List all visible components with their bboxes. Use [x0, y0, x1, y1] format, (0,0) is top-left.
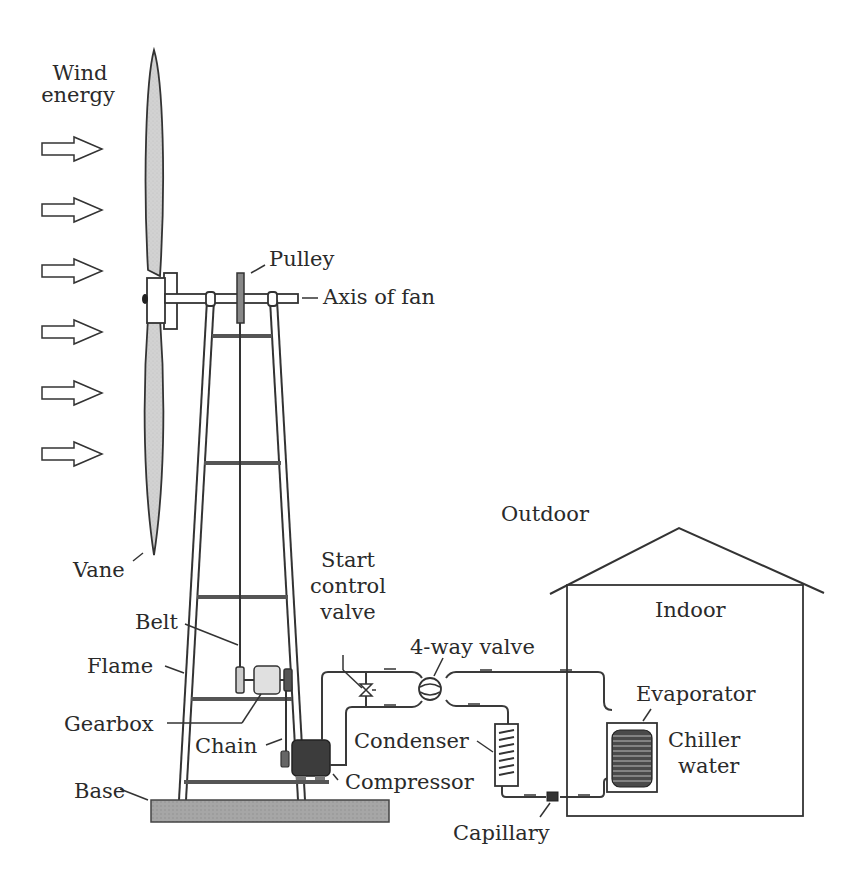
wind-arrow-icon [42, 137, 102, 161]
start-control-valve [360, 684, 376, 696]
start-control-valve-label-line2: control [310, 574, 386, 598]
tower-crossbars [184, 334, 329, 784]
wind-arrow-icon [42, 198, 102, 222]
four-way-valve [419, 678, 441, 700]
base [151, 800, 389, 822]
gearbox [236, 666, 292, 694]
wind-arrow-icon [42, 442, 102, 466]
base-label: Base [74, 779, 125, 803]
flame-label: Flame [87, 654, 153, 678]
evaporator [607, 723, 657, 792]
wind-energy-label-line2: energy [41, 83, 115, 107]
compressor [292, 740, 330, 780]
pulley [237, 273, 244, 323]
wind-energy-label: Wind [53, 61, 108, 85]
lower-blade [145, 318, 164, 555]
wind-arrows [42, 137, 102, 466]
start-control-valve-label-line3: valve [319, 600, 375, 624]
capillary-label: Capillary [453, 821, 550, 845]
wind-arrow-icon [42, 381, 102, 405]
indoor-label: Indoor [655, 598, 727, 622]
bearing [206, 292, 215, 306]
belt-label: Belt [135, 610, 179, 634]
pulley-label: Pulley [269, 247, 335, 271]
condenser-label: Condenser [354, 729, 470, 753]
start-control-valve-label: Start [321, 548, 375, 572]
chain-sprocket [281, 751, 289, 767]
wind-arrow-icon [42, 320, 102, 344]
upper-blade [146, 50, 164, 276]
condenser [495, 724, 518, 786]
compressor-label: Compressor [345, 770, 475, 794]
chain-label: Chain [195, 734, 257, 758]
outdoor-label: Outdoor [501, 502, 590, 526]
chiller-water-label-line2: water [678, 754, 740, 778]
vane-label: Vane [72, 558, 125, 582]
axis-of-fan-label: Axis of fan [322, 285, 435, 309]
gearbox-label: Gearbox [64, 712, 154, 736]
evaporator-label: Evaporator [636, 682, 756, 706]
capillary [547, 792, 558, 801]
bearing [268, 292, 277, 306]
four-way-valve-label: 4-way valve [410, 635, 535, 659]
chiller-water-label: Chiller [668, 728, 741, 752]
wind-powered-refrigeration-diagram: Wind energy [0, 0, 862, 892]
wind-arrow-icon [42, 259, 102, 283]
